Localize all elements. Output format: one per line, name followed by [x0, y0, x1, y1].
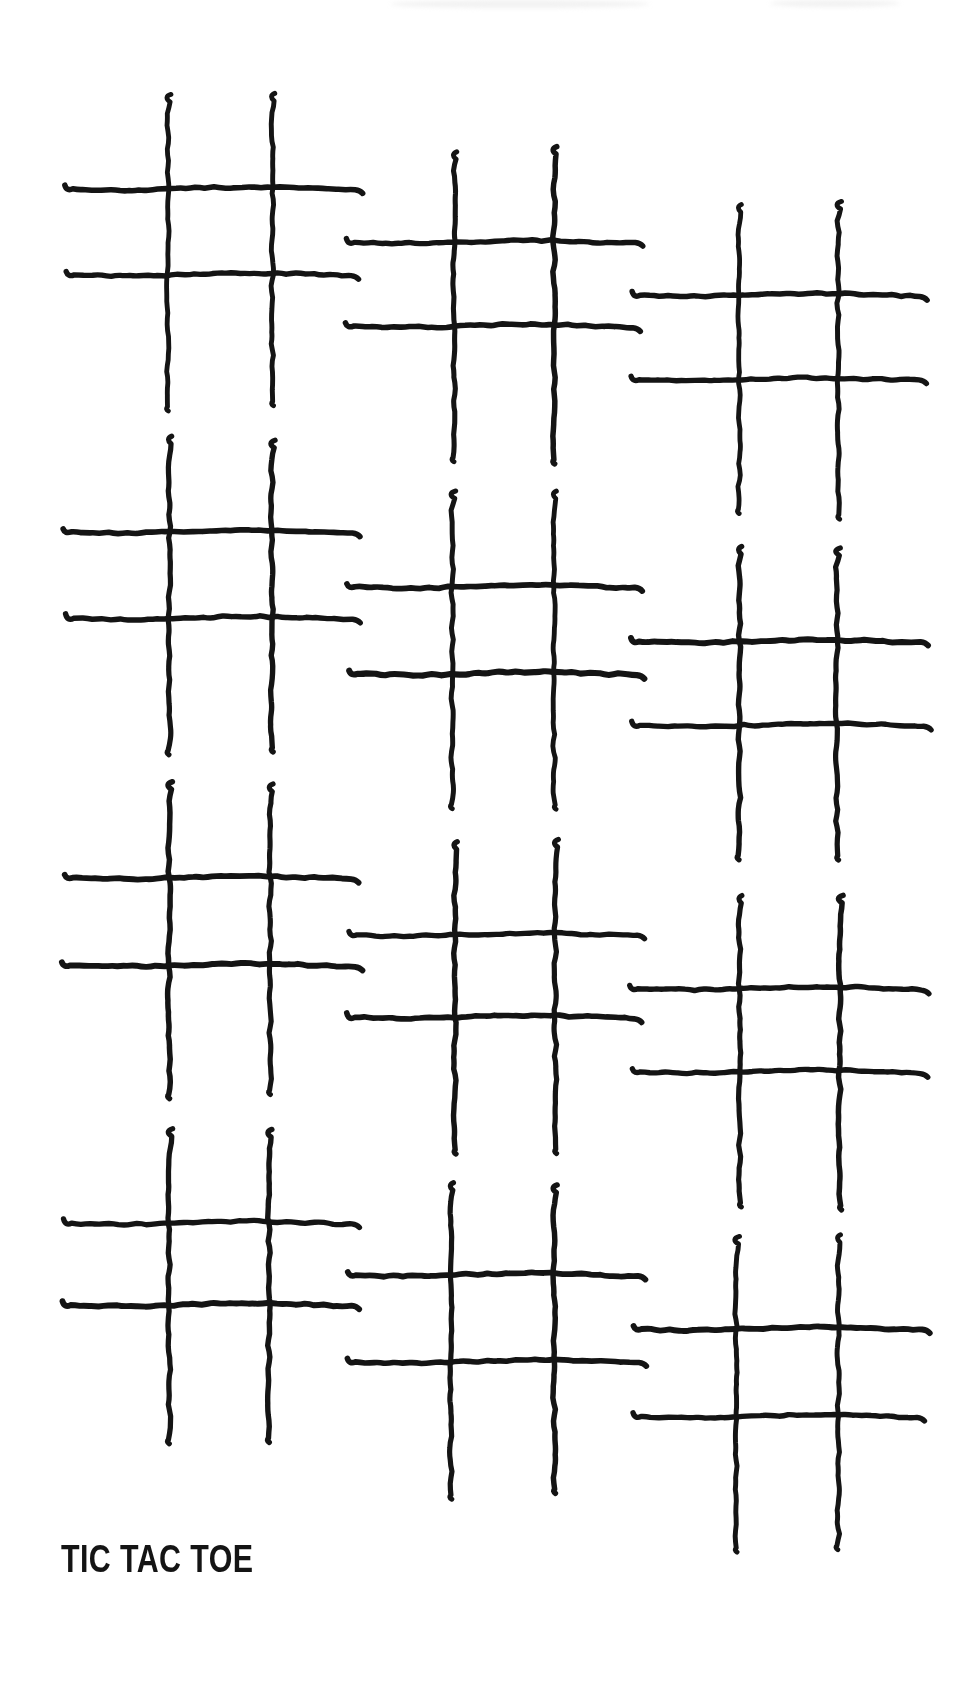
grid-cell-3-6[interactable]: [838, 308, 942, 420]
grid-cell-5-2[interactable]: [449, 487, 553, 599]
tic-tac-toe-grid-8[interactable]: [345, 833, 657, 1168]
grid-cell-5-4[interactable]: [345, 599, 449, 711]
grid-cell-6-6[interactable]: [838, 653, 942, 765]
grid-cell-11-8[interactable]: [449, 1400, 553, 1512]
grid-cell-3-3[interactable]: [838, 196, 942, 308]
grid-cell-11-2[interactable]: [449, 1177, 553, 1289]
grid-cell-10-8[interactable]: [166, 1345, 270, 1457]
grid-cell-9-2[interactable]: [734, 887, 838, 999]
grid-cell-10-7[interactable]: [62, 1345, 166, 1457]
grid-cell-2-5[interactable]: [449, 255, 553, 367]
tic-tac-toe-grid-6[interactable]: [630, 541, 942, 876]
tic-tac-toe-board-layer: [0, 0, 975, 1691]
grid-cell-10-2[interactable]: [166, 1122, 270, 1234]
grid-cell-6-5[interactable]: [734, 653, 838, 765]
grid-cell-7-8[interactable]: [166, 1001, 270, 1113]
grid-cell-5-1[interactable]: [345, 487, 449, 599]
grid-cell-12-6[interactable]: [838, 1343, 942, 1455]
grid-cell-4-5[interactable]: [166, 544, 270, 656]
tic-tac-toe-grid-3[interactable]: [630, 196, 942, 531]
grid-cell-9-3[interactable]: [838, 887, 942, 999]
grid-cell-9-5[interactable]: [734, 999, 838, 1111]
grid-cell-9-1[interactable]: [630, 887, 734, 999]
grid-cell-7-1[interactable]: [62, 778, 166, 890]
grid-cell-7-5[interactable]: [166, 890, 270, 1002]
grid-cell-7-2[interactable]: [166, 778, 270, 890]
grid-cell-3-5[interactable]: [734, 308, 838, 420]
grid-cell-3-1[interactable]: [630, 196, 734, 308]
grid-cell-12-3[interactable]: [838, 1231, 942, 1343]
grid-cell-4-4[interactable]: [62, 544, 166, 656]
grid-cell-2-4[interactable]: [345, 255, 449, 367]
grid-cell-6-8[interactable]: [734, 764, 838, 876]
grid-cell-2-2[interactable]: [449, 143, 553, 255]
grid-cell-1-2[interactable]: [166, 88, 270, 200]
grid-cell-8-1[interactable]: [345, 833, 449, 945]
grid-cell-1-7[interactable]: [62, 311, 166, 423]
grid-cell-6-4[interactable]: [630, 653, 734, 765]
tic-tac-toe-grid-12[interactable]: [630, 1231, 942, 1566]
grid-cell-12-7[interactable]: [630, 1454, 734, 1566]
grid-cell-1-8[interactable]: [166, 311, 270, 423]
grid-cell-7-4[interactable]: [62, 890, 166, 1002]
page-title: TIC TAC TOE: [61, 1539, 253, 1579]
grid-cell-5-8[interactable]: [449, 710, 553, 822]
grid-cell-6-2[interactable]: [734, 541, 838, 653]
grid-cell-1-5[interactable]: [166, 200, 270, 312]
grid-cell-10-4[interactable]: [62, 1234, 166, 1346]
grid-cell-9-6[interactable]: [838, 999, 942, 1111]
grid-cell-12-2[interactable]: [734, 1231, 838, 1343]
grid-cell-6-9[interactable]: [838, 764, 942, 876]
grid-cell-12-5[interactable]: [734, 1343, 838, 1455]
grid-cell-1-1[interactable]: [62, 88, 166, 200]
tic-tac-toe-grid-4[interactable]: [62, 432, 374, 767]
grid-cell-12-9[interactable]: [838, 1454, 942, 1566]
grid-cell-6-3[interactable]: [838, 541, 942, 653]
grid-cell-5-5[interactable]: [449, 599, 553, 711]
tic-tac-toe-grid-5[interactable]: [345, 487, 657, 822]
tic-tac-toe-grid-9[interactable]: [630, 887, 942, 1222]
grid-cell-10-1[interactable]: [62, 1122, 166, 1234]
grid-cell-3-8[interactable]: [734, 419, 838, 531]
tic-tac-toe-grid-11[interactable]: [345, 1177, 657, 1512]
grid-cell-7-7[interactable]: [62, 1001, 166, 1113]
grid-cell-3-9[interactable]: [838, 419, 942, 531]
grid-cell-11-4[interactable]: [345, 1289, 449, 1401]
grid-cell-12-4[interactable]: [630, 1343, 734, 1455]
tic-tac-toe-grid-2[interactable]: [345, 143, 657, 478]
grid-cell-2-1[interactable]: [345, 143, 449, 255]
grid-cell-11-5[interactable]: [449, 1289, 553, 1401]
grid-cell-9-8[interactable]: [734, 1110, 838, 1222]
grid-cell-2-8[interactable]: [449, 366, 553, 478]
grid-cell-10-5[interactable]: [166, 1234, 270, 1346]
tic-tac-toe-grid-7[interactable]: [62, 778, 374, 1113]
grid-cell-8-5[interactable]: [449, 945, 553, 1057]
tic-tac-toe-grid-10[interactable]: [62, 1122, 374, 1457]
grid-cell-11-7[interactable]: [345, 1400, 449, 1512]
grid-cell-1-4[interactable]: [62, 200, 166, 312]
grid-cell-9-4[interactable]: [630, 999, 734, 1111]
grid-cell-4-8[interactable]: [166, 655, 270, 767]
grid-cell-4-7[interactable]: [62, 655, 166, 767]
tic-tac-toe-page: TIC TAC TOE: [0, 0, 975, 1691]
grid-cell-3-4[interactable]: [630, 308, 734, 420]
grid-cell-8-2[interactable]: [449, 833, 553, 945]
tic-tac-toe-grid-1[interactable]: [62, 88, 374, 423]
grid-cell-8-4[interactable]: [345, 945, 449, 1057]
grid-cell-4-2[interactable]: [166, 432, 270, 544]
grid-cell-3-2[interactable]: [734, 196, 838, 308]
grid-cell-8-8[interactable]: [449, 1056, 553, 1168]
grid-cell-12-1[interactable]: [630, 1231, 734, 1343]
grid-cell-4-1[interactable]: [62, 432, 166, 544]
grid-cell-9-9[interactable]: [838, 1110, 942, 1222]
grid-cell-11-1[interactable]: [345, 1177, 449, 1289]
grid-cell-12-8[interactable]: [734, 1454, 838, 1566]
grid-cell-6-1[interactable]: [630, 541, 734, 653]
